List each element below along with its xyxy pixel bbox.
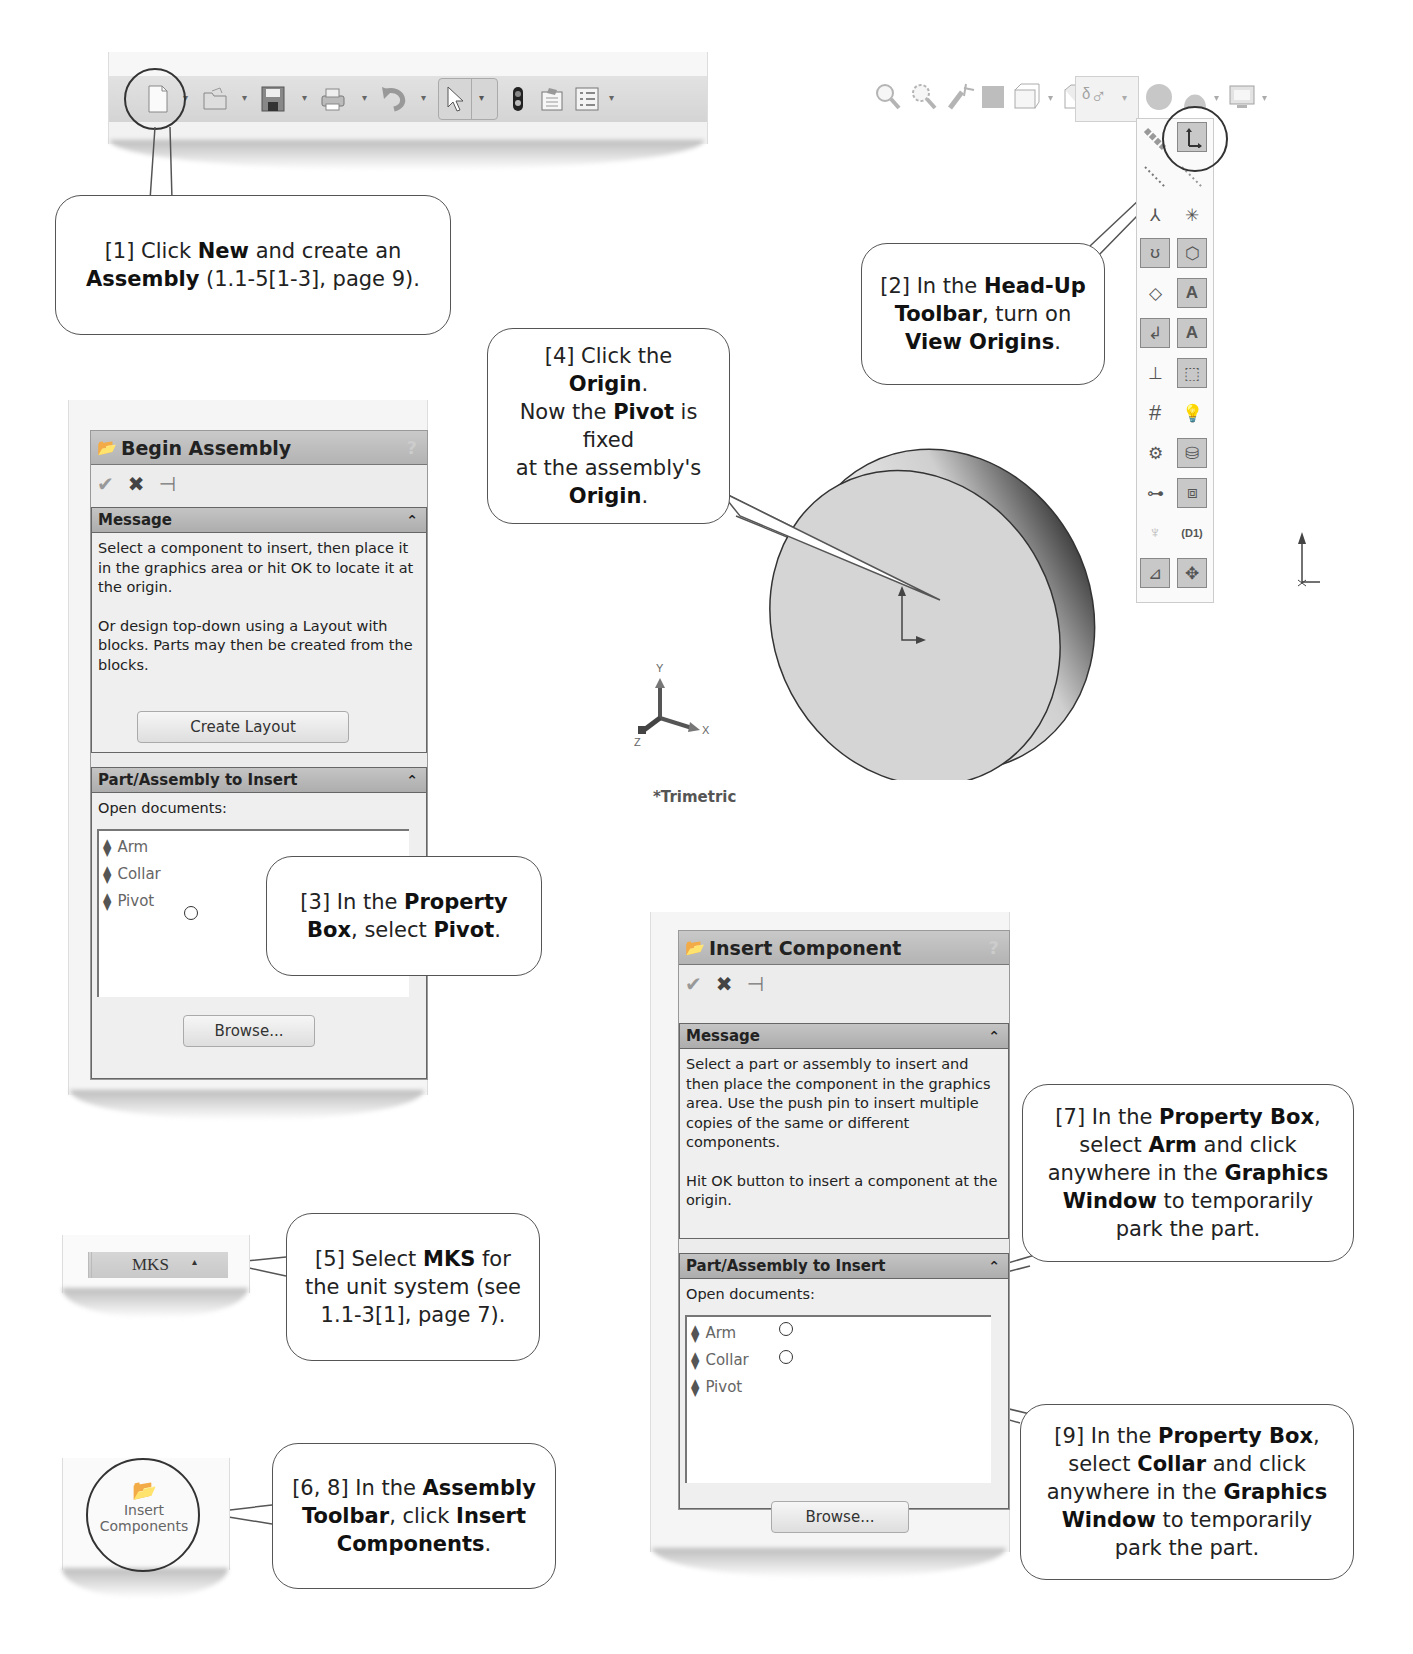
- open-documents-list[interactable]: ⧫Arm ⧫Collar ⧫Pivot: [685, 1315, 991, 1483]
- pointer-dot-collar: [779, 1350, 793, 1364]
- view-orientation-arrow[interactable]: ▾: [1048, 92, 1053, 103]
- browse-button[interactable]: Browse...: [771, 1501, 909, 1533]
- undo-dropdown-arrow[interactable]: ▾: [421, 92, 426, 103]
- browse-button[interactable]: Browse...: [183, 1015, 315, 1047]
- view-all-annotations-icon[interactable]: A: [1177, 318, 1207, 348]
- printer-icon[interactable]: [318, 82, 348, 116]
- section-view-icon[interactable]: [982, 86, 1004, 108]
- collapse-icon[interactable]: ⌃: [406, 512, 418, 528]
- callout-step-3: [3] In the Property Box, select Pivot.: [266, 856, 542, 976]
- create-layout-button[interactable]: Create Layout: [137, 711, 349, 743]
- insert-group-header[interactable]: Part/Assembly to Insert ⌃: [91, 767, 427, 793]
- ok-check-icon[interactable]: ✔: [97, 472, 114, 496]
- view-sketch-dimensions-icon[interactable]: ⊿: [1140, 558, 1170, 588]
- insert-group-header[interactable]: Part/Assembly to Insert ⌃: [679, 1253, 1009, 1279]
- view-center-of-mass-icon[interactable]: ♆: [1140, 518, 1170, 548]
- rebuild-traffic-light-icon[interactable]: [503, 82, 533, 116]
- apply-scene-arrow[interactable]: ▾: [1214, 92, 1219, 103]
- triad-icon: [630, 670, 730, 750]
- help-icon[interactable]: ?: [407, 437, 417, 458]
- view-dimension-names-icon[interactable]: (D1): [1177, 518, 1207, 548]
- view-settings-arrow[interactable]: ▾: [1262, 92, 1267, 103]
- document-item-collar[interactable]: ⧫Collar: [103, 864, 161, 884]
- collapse-icon[interactable]: ⌃: [988, 1028, 1000, 1044]
- open-folder-icon[interactable]: [200, 82, 230, 116]
- options-list-icon[interactable]: [572, 82, 602, 116]
- assembly-toolbar-shadow: [62, 1568, 228, 1598]
- view-weld-beads-icon[interactable]: ⊶: [1140, 478, 1170, 508]
- pushpin-icon[interactable]: ⊣: [159, 472, 176, 496]
- open-documents-label: Open documents:: [98, 799, 420, 819]
- view-points-icon[interactable]: ✳: [1177, 200, 1207, 230]
- save-disk-icon[interactable]: [258, 82, 288, 116]
- undo-icon[interactable]: [380, 82, 410, 116]
- view-grid-icon[interactable]: #: [1140, 398, 1170, 428]
- view-temporary-axes-icon[interactable]: [1140, 162, 1170, 192]
- part-icon: ⧫: [103, 837, 111, 857]
- message-group-header[interactable]: Message ⌃: [679, 1023, 1009, 1049]
- help-icon[interactable]: ?: [989, 937, 999, 958]
- hide-show-items-arrow[interactable]: ▾: [1122, 92, 1127, 103]
- insert-component-actions: ✔ ✖ ⊣: [685, 969, 764, 999]
- edit-appearance-icon[interactable]: [1146, 84, 1172, 110]
- document-item-pivot[interactable]: ⧫Pivot: [691, 1377, 742, 1397]
- document-item-arm[interactable]: ⧫Arm: [103, 837, 148, 857]
- cancel-x-icon[interactable]: ✖: [128, 472, 145, 496]
- pointer-dot-pivot: [184, 906, 198, 920]
- view-curves-icon[interactable]: ʊ: [1140, 238, 1170, 268]
- unit-system-value: MKS: [132, 1255, 169, 1275]
- document-item-arm[interactable]: ⧫Arm: [691, 1323, 736, 1343]
- zoom-to-fit-icon[interactable]: [874, 82, 902, 116]
- view-lights-icon[interactable]: 💡: [1177, 398, 1207, 428]
- ok-check-icon[interactable]: ✔: [685, 972, 702, 996]
- open-dropdown-arrow[interactable]: ▾: [242, 92, 247, 103]
- begin-assembly-panel: 📂 Begin Assembly ? ✔ ✖ ⊣ Message ⌃ Selec…: [90, 430, 428, 1080]
- zoom-to-area-icon[interactable]: [910, 82, 938, 116]
- view-coordinate-systems-icon[interactable]: ⅄: [1140, 200, 1170, 230]
- save-dropdown-arrow[interactable]: ▾: [302, 92, 307, 103]
- view-dimxpert-icon[interactable]: ⧈: [1177, 478, 1207, 508]
- unit-system-arrow-icon[interactable]: ▴: [192, 1256, 197, 1267]
- part-icon: ⧫: [691, 1323, 699, 1343]
- view-parting-lines-icon[interactable]: ⬡: [1177, 238, 1207, 268]
- callout-step-1: [1] Click New and create an Assembly (1.…: [55, 195, 451, 335]
- highlight-circle-new: [124, 68, 186, 130]
- view-cameras-icon[interactable]: ⚙: [1140, 438, 1170, 468]
- view-3d-sketches-icon[interactable]: ↲: [1140, 318, 1170, 348]
- part-icon: ⧫: [691, 1350, 699, 1370]
- select-button[interactable]: ▾: [438, 78, 498, 120]
- select-dropdown-arrow[interactable]: ▾: [479, 92, 484, 103]
- view-orientation-label: *Trimetric: [653, 788, 736, 806]
- insert-component-panel: 📂 Insert Component ? ✔ ✖ ⊣ Message ⌃ Sel…: [678, 930, 1010, 1510]
- pushpin-icon[interactable]: ⊣: [747, 972, 764, 996]
- collapse-icon[interactable]: ⌃: [988, 1258, 1000, 1274]
- view-decals-icon[interactable]: ⛁: [1177, 438, 1207, 468]
- message-text-1: Select a part or assembly to insert and …: [686, 1055, 1002, 1153]
- collapse-icon[interactable]: ⌃: [406, 772, 418, 788]
- view-routing-points-icon[interactable]: ⬚: [1177, 358, 1207, 388]
- print-dropdown-arrow[interactable]: ▾: [362, 92, 367, 103]
- toolbar-shadow: [110, 140, 704, 170]
- reference-triad: Y X Z: [630, 670, 730, 750]
- unit-system-selector[interactable]: MKS ▴: [88, 1252, 228, 1278]
- document-item-collar[interactable]: ⧫Collar: [691, 1350, 749, 1370]
- insert-component-icon: 📂: [685, 938, 705, 957]
- hide-show-items-icon[interactable]: ᵟ♂: [1082, 84, 1107, 110]
- message-group-header[interactable]: Message ⌃: [91, 507, 427, 533]
- open-documents-label: Open documents:: [686, 1285, 1002, 1305]
- part-icon: ⧫: [103, 891, 111, 911]
- triad-y-label: Y: [656, 662, 663, 674]
- previous-view-icon[interactable]: [946, 82, 976, 116]
- file-properties-icon[interactable]: [537, 82, 567, 116]
- begin-assembly-title: 📂 Begin Assembly ?: [91, 431, 427, 465]
- cancel-x-icon[interactable]: ✖: [716, 972, 733, 996]
- view-settings-icon[interactable]: [1228, 82, 1256, 116]
- view-grid-origin-icon[interactable]: ✥: [1177, 558, 1207, 588]
- view-sketches-icon[interactable]: ◇: [1140, 278, 1170, 308]
- options-dropdown-arrow[interactable]: ▾: [609, 92, 614, 103]
- view-sketch-relations-icon[interactable]: ⊥: [1140, 358, 1170, 388]
- highlight-circle-view-origins: [1162, 106, 1228, 172]
- view-annotations-icon[interactable]: A: [1177, 278, 1207, 308]
- view-orientation-icon[interactable]: [1012, 82, 1042, 116]
- document-item-pivot[interactable]: ⧫Pivot: [103, 891, 154, 911]
